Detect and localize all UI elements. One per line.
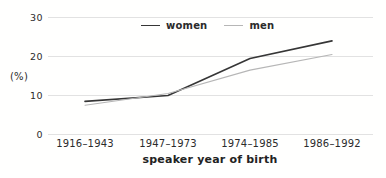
x-tick-label: 1986–1992 <box>296 138 368 149</box>
women-line-swatch <box>141 25 160 26</box>
legend-label-women: women <box>166 20 207 31</box>
x-tick-label: 1974–1985 <box>214 138 286 149</box>
y-tick-label: 0 <box>19 129 43 140</box>
series-line-men <box>85 55 332 106</box>
y-axis-unit-label: (%) <box>4 71 34 82</box>
y-tick-label: 10 <box>19 90 43 101</box>
x-tick-label: 1947–1973 <box>132 138 204 149</box>
legend: women men <box>141 20 274 31</box>
x-axis-title: speaker year of birth <box>120 153 300 166</box>
y-tick-label: 20 <box>19 51 43 62</box>
y-tick-label: 30 <box>19 12 43 23</box>
men-line-swatch <box>224 25 243 26</box>
line-chart-figure: (%) women men speaker year of birth 0102… <box>0 0 386 178</box>
legend-item-women: women <box>141 20 207 31</box>
legend-label-men: men <box>249 20 274 31</box>
series-line-women <box>85 41 332 101</box>
x-tick-label: 1916–1943 <box>49 138 121 149</box>
legend-item-men: men <box>224 20 274 31</box>
